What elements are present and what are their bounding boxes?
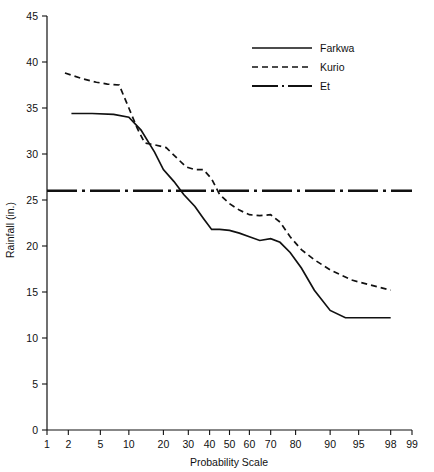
legend-entry-farkwa: Farkwa xyxy=(252,42,355,54)
x-tick-label: 60 xyxy=(244,438,256,450)
y-tick-label: 15 xyxy=(26,286,38,298)
y-tick-label: 30 xyxy=(26,148,38,160)
y-tick-label: 35 xyxy=(26,102,38,114)
y-tick-label: 40 xyxy=(26,56,38,68)
x-tick-label: 5 xyxy=(97,438,103,450)
y-axis-tick-labels: 051015202530354045 xyxy=(26,10,38,436)
legend-entry-kurio: Kurio xyxy=(252,61,345,73)
y-tick-label: 25 xyxy=(26,194,38,206)
x-tick-label: 2 xyxy=(65,438,71,450)
series-line-farkwa xyxy=(71,114,390,318)
y-tick-label: 20 xyxy=(26,240,38,252)
y-tick-label: 0 xyxy=(32,424,38,436)
y-axis-ticks xyxy=(42,16,47,430)
x-tick-label: 40 xyxy=(204,438,216,450)
x-tick-label: 90 xyxy=(324,438,336,450)
x-axis-title: Probability Scale xyxy=(190,456,268,468)
x-tick-label: 30 xyxy=(182,438,194,450)
x-tick-label: 95 xyxy=(353,438,365,450)
y-axis-title: Rainfall (in.) xyxy=(4,202,16,258)
rainfall-probability-chart: 051015202530354045 125102030405060708090… xyxy=(0,0,434,472)
x-tick-label: 10 xyxy=(123,438,135,450)
x-tick-label: 1 xyxy=(44,438,50,450)
y-tick-label: 10 xyxy=(26,332,38,344)
x-tick-label: 50 xyxy=(224,438,236,450)
x-tick-label: 80 xyxy=(290,438,302,450)
x-tick-label: 98 xyxy=(385,438,397,450)
x-tick-label: 70 xyxy=(265,438,277,450)
x-tick-label: 20 xyxy=(158,438,170,450)
chart-figure: 051015202530354045 125102030405060708090… xyxy=(0,0,434,472)
series-line-kurio xyxy=(65,73,391,290)
legend-label-et: Et xyxy=(320,80,330,92)
y-tick-label: 5 xyxy=(32,378,38,390)
legend-entry-et: Et xyxy=(252,80,330,92)
chart-legend: Farkwa Kurio Et xyxy=(252,42,355,92)
x-axis-ticks xyxy=(47,430,412,435)
legend-label-farkwa: Farkwa xyxy=(320,42,355,54)
legend-label-kurio: Kurio xyxy=(320,61,345,73)
x-tick-label: 99 xyxy=(406,438,418,450)
x-axis-tick-labels: 125102030405060708090959899 xyxy=(44,438,418,450)
y-tick-label: 45 xyxy=(26,10,38,22)
